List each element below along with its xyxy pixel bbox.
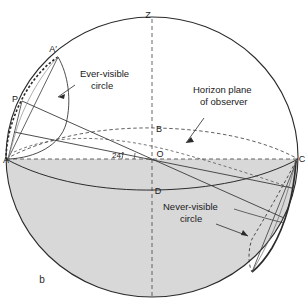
point-label-D: D [155, 186, 162, 196]
leader-horizon-plane [186, 118, 204, 143]
point-label-Z: Z [145, 10, 151, 20]
point-label-O: O [156, 149, 163, 159]
label-horizon-line1: Horizon plane [193, 84, 252, 95]
leader-ever-visible [58, 85, 75, 97]
panel-label-b: b [39, 274, 45, 285]
point-label-P: P [12, 94, 18, 104]
point-label-A: A [3, 155, 9, 165]
figure-root: Ever-visible circle Horizon plane of obs… [0, 0, 308, 298]
label-ever-visible-line2: circle [91, 80, 113, 91]
label-ever-visible-line1: Ever-visible [80, 68, 129, 79]
label-horizon-line2: of observer [200, 96, 248, 107]
label-angle-24: 24° [112, 151, 124, 160]
point-label-A-prime: A′ [49, 44, 57, 54]
point-label-C: C [299, 154, 306, 164]
celestial-sphere-diagram: Ever-visible circle Horizon plane of obs… [0, 0, 308, 298]
label-never-visible-line2: circle [180, 213, 202, 224]
label-never-visible-line1: Never-visible [163, 201, 218, 212]
point-label-B: B [156, 124, 162, 134]
